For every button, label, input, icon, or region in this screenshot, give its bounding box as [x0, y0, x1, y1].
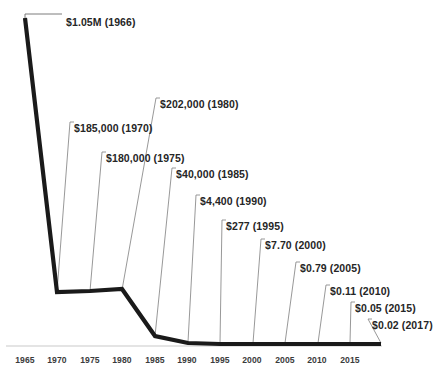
line-chart: $1.05M (1966) $185,000 (1970) $180,000 (… — [0, 0, 442, 376]
leader-line-2000 — [253, 239, 265, 343]
x-tick-2005: 2005 — [275, 355, 295, 365]
x-tick-1990: 1990 — [177, 355, 197, 365]
leader-line-2005 — [285, 262, 300, 343]
callout-labels: $1.05M (1966) $185,000 (1970) $180,000 (… — [66, 16, 433, 331]
leader-line-1970 — [57, 122, 74, 292]
x-tick-1970: 1970 — [47, 355, 67, 365]
x-tick-1980: 1980 — [112, 355, 132, 365]
x-axis-ticks: 1965 1970 1975 1980 1985 1990 1995 2000 … — [15, 355, 360, 365]
callout-label-2000: $7.70 (2000) — [265, 239, 326, 251]
x-tick-1985: 1985 — [145, 355, 165, 365]
callout-label-2005: $0.79 (2005) — [300, 262, 361, 274]
leader-line-1985 — [155, 168, 176, 336]
x-tick-2015: 2015 — [340, 355, 360, 365]
callout-label-1975: $180,000 (1975) — [106, 152, 185, 164]
callout-label-2015: $0.05 (2015) — [355, 302, 416, 314]
callout-label-1980: $202,000 (1980) — [160, 98, 239, 110]
chart-container: $1.05M (1966) $185,000 (1970) $180,000 (… — [0, 0, 442, 376]
callout-label-2017: $0.02 (2017) — [372, 319, 433, 331]
leader-line-1975 — [90, 152, 106, 291]
callout-label-1966: $1.05M (1966) — [66, 16, 136, 28]
callout-label-1985: $40,000 (1985) — [176, 168, 249, 180]
callout-label-1970: $185,000 (1970) — [74, 122, 153, 134]
data-line — [25, 18, 381, 344]
leader-line-1966 — [25, 14, 62, 18]
x-tick-2010: 2010 — [307, 355, 327, 365]
callout-label-1995: $277 (1995) — [226, 220, 284, 232]
x-tick-1965: 1965 — [15, 355, 35, 365]
x-tick-1995: 1995 — [210, 355, 230, 365]
x-tick-2000: 2000 — [242, 355, 262, 365]
leader-line-2010 — [318, 285, 330, 343]
x-tick-1975: 1975 — [80, 355, 100, 365]
leader-line-1990 — [188, 195, 200, 342]
callout-label-2010: $0.11 (2010) — [330, 285, 390, 297]
leader-line-1995 — [220, 220, 226, 343]
callout-label-1990: $4,400 (1990) — [200, 195, 267, 207]
